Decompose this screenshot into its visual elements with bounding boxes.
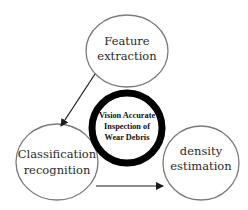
center-label-line-3: Wear Debris xyxy=(105,133,151,142)
node-feature-extraction: Feature extraction xyxy=(86,15,168,87)
node-label-line-2: recognition xyxy=(24,163,91,177)
node-label-line-2: estimation xyxy=(170,159,232,173)
center-label-line-1: Vision Accurate xyxy=(99,111,155,120)
center-label-line-2: Inspection of xyxy=(104,122,150,131)
node-label-line-1: Classification xyxy=(18,147,97,161)
node-label-line-2: extraction xyxy=(97,49,157,63)
node-classification-recognition: Classification recognition xyxy=(16,124,98,200)
node-density-estimation: density estimation xyxy=(163,126,239,200)
node-label-line-1: density xyxy=(180,144,223,158)
center-hub: Vision Accurate Inspection of Wear Debri… xyxy=(92,93,162,163)
node-label-line-1: Feature xyxy=(104,34,150,48)
node-circle xyxy=(16,124,98,200)
cycle-diagram: Feature extraction Classification recogn… xyxy=(0,0,248,210)
